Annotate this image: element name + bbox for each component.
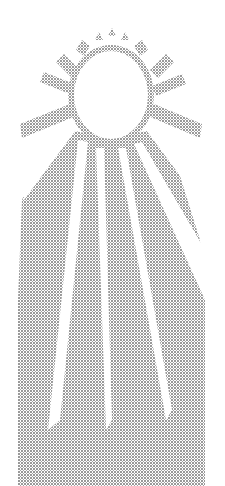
sun-disc — [74, 51, 148, 139]
sun-illustration — [0, 0, 225, 486]
